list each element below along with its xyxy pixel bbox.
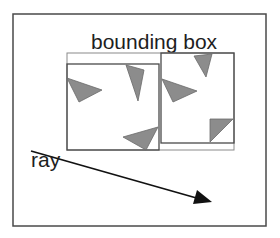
bounding-box-label: bounding box — [91, 30, 218, 53]
bounding-volume-diagram: bounding box ray — [0, 0, 280, 238]
ray-label: ray — [31, 148, 61, 171]
